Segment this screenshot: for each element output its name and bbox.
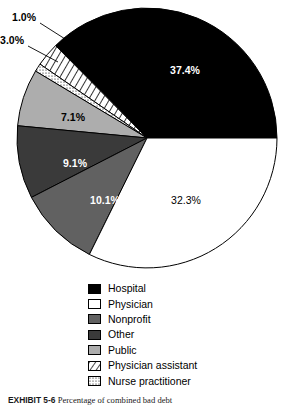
- dark-gray-swatch: [88, 330, 101, 340]
- legend-item-public[interactable]: Public: [88, 343, 288, 358]
- pie-chart-figure: 37.4% 32.3% 10.1% 9.1% 7.1% 1.0% 3.0% Ho…: [0, 0, 292, 405]
- pie-chart-area: 37.4% 32.3% 10.1% 9.1% 7.1% 1.0% 3.0%: [0, 0, 292, 278]
- black-swatch: [88, 284, 101, 294]
- legend-item-nurse-practitioner[interactable]: Nurse practitioner: [88, 373, 288, 388]
- legend-label-physician-assistant: Physician assistant: [108, 360, 197, 371]
- legend-item-hospital[interactable]: Hospital: [88, 281, 288, 296]
- light-gray-swatch: [88, 345, 101, 355]
- slice-value-physician: 32.3%: [171, 194, 201, 206]
- white-swatch: [88, 299, 101, 309]
- legend-label-other: Other: [108, 329, 134, 340]
- slice-value-public: 7.1%: [61, 111, 86, 123]
- leader-line-nurse-practitioner: [40, 23, 73, 44]
- legend-label-nonprofit: Nonprofit: [108, 314, 151, 325]
- slice-value-other: 9.1%: [63, 157, 88, 169]
- legend-label-nurse-practitioner: Nurse practitioner: [108, 376, 191, 387]
- chart-legend: Hospital Physician Nonprofit Other Publi…: [88, 281, 288, 389]
- figure-caption: EXHIBIT 5-6 Percentage of combined bad d…: [8, 395, 292, 405]
- slice-value-hospital: 37.4%: [170, 64, 200, 76]
- legend-label-hospital: Hospital: [108, 283, 146, 294]
- stippled-swatch: [88, 376, 101, 386]
- slice-value-nonprofit: 10.1%: [90, 194, 120, 206]
- legend-item-physician[interactable]: Physician: [88, 296, 288, 311]
- slice-value-nurse-practitioner: 1.0%: [12, 11, 37, 23]
- caption-text: Percentage of combined bad debt: [58, 395, 173, 405]
- legend-item-physician-assistant[interactable]: Physician assistant: [88, 358, 288, 373]
- legend-label-physician: Physician: [108, 299, 153, 310]
- medium-gray-swatch: [88, 314, 101, 324]
- legend-label-public: Public: [108, 345, 137, 356]
- exhibit-number: EXHIBIT 5-6: [8, 395, 55, 405]
- pie-chart-svg: 37.4% 32.3% 10.1% 9.1% 7.1% 1.0% 3.0%: [0, 0, 292, 278]
- slice-value-physician-assistant: 3.0%: [0, 34, 25, 46]
- legend-item-other[interactable]: Other: [88, 327, 288, 342]
- legend-item-nonprofit[interactable]: Nonprofit: [88, 312, 288, 327]
- hatched-swatch: [88, 361, 101, 371]
